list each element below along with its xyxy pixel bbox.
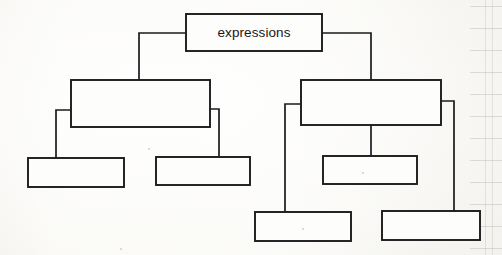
tree-diagram <box>0 0 502 255</box>
node-left-branch[interactable] <box>71 80 210 127</box>
node-right-child-left[interactable] <box>255 212 351 241</box>
node-right-branch[interactable] <box>301 80 441 125</box>
edge-root-left <box>139 33 186 80</box>
node-group <box>28 14 480 241</box>
node-left-child-1[interactable] <box>28 158 124 187</box>
node-right-child-center[interactable] <box>323 156 417 184</box>
edge-left-child-2 <box>210 109 219 157</box>
node-left-child-2[interactable] <box>156 157 250 185</box>
node-right-child-right[interactable] <box>382 211 480 240</box>
edge-root-right <box>322 33 371 80</box>
tree-diagram-svg <box>0 0 502 255</box>
edge-right-child-left <box>285 104 301 212</box>
edge-right-child-right <box>441 101 454 211</box>
notebook-page: expressions <box>0 0 502 255</box>
node-root[interactable] <box>186 14 322 51</box>
edge-left-child-1 <box>56 110 71 158</box>
